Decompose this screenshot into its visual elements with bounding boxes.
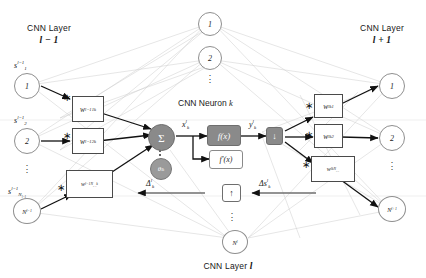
summation-node[interactable]: Σ [148,124,175,151]
delta-out-label: Δlk [146,178,154,189]
top-node-2[interactable]: 2 [198,46,222,70]
conv-operator-2: ∗ [63,130,71,141]
center-caption-index: k [229,98,233,108]
top-node-1[interactable]: 1 [198,12,222,36]
weight-box-k1[interactable]: wlk1 [314,94,343,118]
conv-operator-k1: ∗ [305,100,313,111]
figure-canvas: CNN Layer l − 1 CNN Layer l + 1 CNN Neur… [0,0,426,278]
header-right-layer: CNN Layer l + 1 [340,24,424,46]
up-arrow-box[interactable]: ↑ [222,184,241,202]
weight-box-k2[interactable]: wlk2 [314,124,343,148]
header-left-title: CNN Layer [27,23,71,33]
conv-operator-n: ∗ [57,182,65,193]
header-left-index: l − 1 [6,35,92,46]
delta-in-label: Δslk [259,178,270,189]
bottom-node-n[interactable]: Nl [222,230,248,254]
derivative-box[interactable]: f′(x) [209,150,243,169]
derivative-label: f′(x) [220,155,233,164]
conv-operator-kn: ∗ [302,159,310,170]
activation-box[interactable]: f(x) [207,125,241,146]
bottom-dots: ··· [225,212,239,223]
left-node-1[interactable]: 1 [14,73,40,99]
weight-box-1k[interactable]: wl−11k [72,96,104,122]
header-right-title: CNN Layer [360,23,404,33]
weight-box-nk[interactable]: wl−1Nl−1k [66,170,113,198]
header-bottom-layer: CNN Layer l [178,261,278,272]
right-node-1[interactable]: 1 [379,73,405,99]
top-dots: ··· [203,74,217,85]
right-node-2[interactable]: 2 [379,125,405,151]
right-node-n[interactable]: Nl+1 [378,196,406,222]
header-bottom-title: CNN Layer [203,261,247,271]
left-node-2[interactable]: 2 [14,128,40,154]
header-right-index: l + 1 [340,35,424,46]
header-left-layer: CNN Layer l − 1 [6,24,92,46]
center-caption: CNN Neuron k [178,98,233,108]
down-arrow-box[interactable]: ↓ [266,127,283,145]
center-caption-text: CNN Neuron [178,98,227,108]
conv-operator-1: ∗ [63,92,71,103]
weight-box-kn[interactable]: wlkNl+1 [311,156,355,182]
left-signal-1: sl−11 [14,60,27,71]
output-label: ylk [249,119,256,130]
weight-box-2k[interactable]: wl−12k [72,128,104,154]
header-bottom-index: l [250,261,253,271]
bias-node[interactable]: θlk [150,158,172,180]
left-dots: ··· [20,164,34,175]
activation-label: f(x) [218,131,231,141]
right-dots: ··· [385,161,399,172]
left-node-n[interactable]: Nl−1 [13,198,41,224]
net-input-label: xlk [182,119,189,130]
up-arrow-icon: ↑ [229,188,234,198]
left-signal-2: sl−12 [14,115,27,126]
down-arrow-icon: ↓ [272,131,277,141]
conv-operator-k2: ∗ [305,129,313,140]
